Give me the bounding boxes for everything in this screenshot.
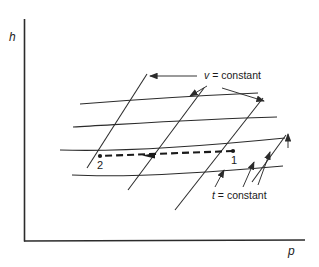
x-axis-line	[24, 240, 305, 241]
v-leader-arrow-mid	[190, 86, 207, 96]
v-constant-curves	[60, 93, 285, 176]
state-point-2-label: 2	[97, 160, 103, 171]
axis-lines	[24, 19, 305, 242]
state-point-1-label: 1	[231, 155, 237, 166]
ph-diagram-figure: h p v = constant t = constant 1 2	[0, 0, 319, 267]
diagram-canvas	[0, 0, 319, 267]
t-leader-arrow-2	[243, 162, 254, 187]
t-constant-label: t = constant	[212, 190, 267, 201]
t-constant-line-a	[87, 74, 147, 168]
y-axis-label: h	[9, 31, 16, 43]
v-constant-leaders	[150, 76, 288, 148]
t-leader-arrow-1	[215, 170, 224, 187]
v-constant-curve-upper	[80, 93, 258, 104]
process-dashed-line	[100, 151, 233, 156]
state-point-1-marker	[231, 149, 235, 153]
t-constant-line-d	[252, 135, 286, 182]
v-constant-label: v = constant	[204, 70, 261, 81]
x-axis-label: p	[288, 245, 295, 257]
v-constant-curve-lower	[60, 138, 285, 150]
state-point-2-marker	[98, 154, 102, 158]
